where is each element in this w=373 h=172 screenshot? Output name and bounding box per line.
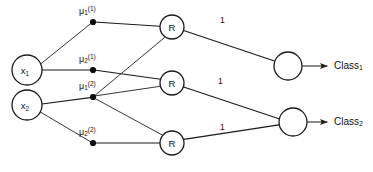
label-class-1: Class1 — [334, 61, 363, 71]
node-mu21-dot[interactable] — [90, 67, 96, 73]
label-mu-2-2: μ2(2) — [79, 127, 96, 138]
label-mu-2-2-superscript: (2) — [88, 126, 96, 133]
edge-r2-o2 — [184, 87, 281, 119]
network-canvas: x1 x2 R R — [0, 0, 373, 172]
edge-r3-o2 — [184, 125, 281, 140]
hidden-layer: R R R — [160, 15, 184, 155]
node-r2-label: R — [169, 78, 176, 89]
edge-mu21-r2 — [94, 70, 161, 79]
node-r3[interactable]: R — [160, 131, 184, 155]
label-class-1-text: Class — [334, 60, 359, 71]
node-x1[interactable]: x1 — [12, 55, 42, 85]
node-r1[interactable]: R — [160, 15, 184, 39]
label-weight-r3-o2: 1 — [220, 123, 225, 132]
label-mu-2-1-superscript: (1) — [88, 53, 96, 60]
label-weight-r2-o2: 1 — [218, 77, 223, 86]
label-class-1-subscript: 1 — [359, 64, 363, 71]
label-weight-r1-o1: 1 — [220, 16, 225, 25]
label-mu-1-1: μ1(1) — [79, 6, 96, 17]
node-r3-label: R — [169, 138, 176, 149]
input-layer: x1 x2 — [12, 55, 42, 120]
node-r1-label: R — [169, 22, 176, 33]
edge-r1-o1 — [184, 31, 276, 62]
node-x1-label-sub: 1 — [26, 70, 30, 77]
edge-x2-mu12 — [42, 97, 92, 104]
rbf-network-diagram: x1 x2 R R — [0, 0, 373, 172]
node-x2-label-sub: 2 — [26, 105, 30, 112]
edge-mu11-r1 — [94, 22, 160, 26]
node-mu11-dot[interactable] — [90, 19, 96, 25]
label-mu-1-1-superscript: (1) — [88, 5, 96, 12]
label-class-2-subscript: 2 — [359, 120, 363, 127]
edges-centers-to-hidden — [94, 22, 165, 143]
edges-output-to-class — [303, 66, 328, 122]
node-mu22-dot[interactable] — [90, 140, 96, 146]
node-output-1-circle[interactable] — [274, 52, 302, 80]
label-class-2: Class2 — [334, 117, 363, 127]
edges-hidden-to-output — [184, 31, 281, 140]
node-r2[interactable]: R — [160, 71, 184, 95]
label-mu-1-2-superscript: (2) — [88, 80, 96, 87]
label-mu-1-2: μ1(2) — [79, 81, 96, 92]
node-x2[interactable]: x2 — [12, 90, 42, 120]
label-mu-2-1: μ2(1) — [79, 54, 96, 65]
edge-mu12-r3 — [95, 99, 163, 136]
label-class-2-text: Class — [334, 116, 359, 127]
node-output-2-circle[interactable] — [279, 108, 307, 136]
output-layer — [274, 52, 307, 136]
node-mu12-dot[interactable] — [90, 94, 96, 100]
